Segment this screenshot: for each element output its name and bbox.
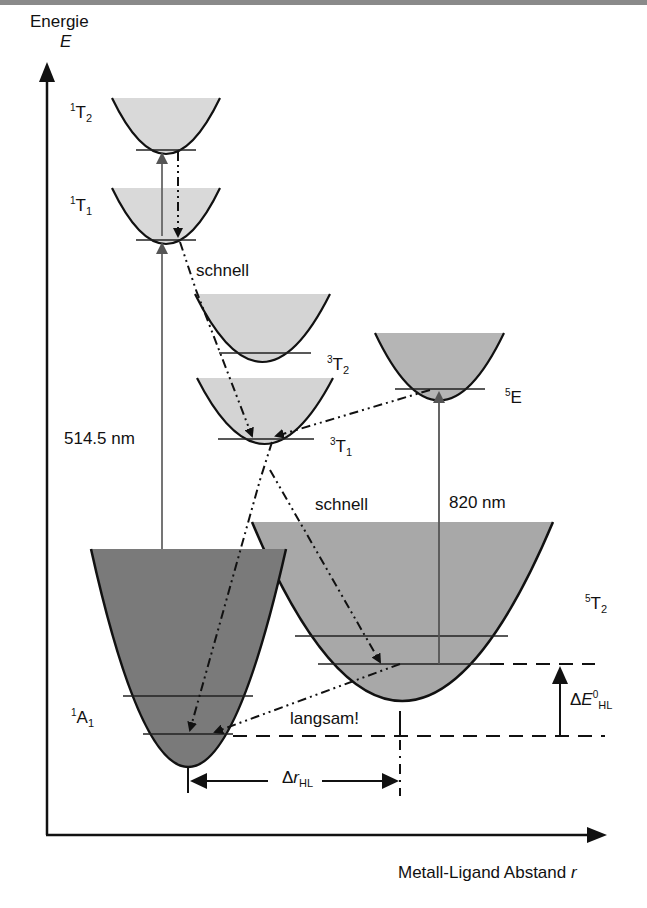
potential-5E xyxy=(375,333,504,401)
state-label-1T1: 1T1 xyxy=(70,196,92,217)
label-schnell-2: schnell xyxy=(315,496,368,513)
state-label-3T1: 3T1 xyxy=(330,437,352,458)
hl-subscript: HL xyxy=(598,699,612,711)
potential-1A1 xyxy=(91,549,286,767)
term: T xyxy=(336,437,346,456)
hl-subscript: HL xyxy=(299,777,313,789)
x-axis-symbol: r xyxy=(571,863,577,882)
state-label-1A1: 1A1 xyxy=(71,708,94,729)
subscript: 1 xyxy=(346,446,352,458)
label-schnell-1: schnell xyxy=(196,262,249,279)
y-axis-label: Energie xyxy=(30,13,89,30)
energy-diagram xyxy=(0,0,647,908)
potential-5T2 xyxy=(252,522,553,701)
y-axis-symbol: E xyxy=(60,33,71,50)
potential-1T1 xyxy=(112,188,220,244)
label-820nm: 820 nm xyxy=(449,494,506,511)
delta-symbol: Δ xyxy=(570,690,581,709)
potential-1T2 xyxy=(112,98,220,154)
state-label-5T2: 5T2 xyxy=(585,594,607,615)
delta-e-arrow xyxy=(552,666,568,736)
state-label-5E: 5E xyxy=(505,388,522,406)
term: A xyxy=(77,708,88,727)
subscript: 2 xyxy=(343,364,349,376)
term: T xyxy=(76,103,86,122)
x-axis-label-text: Metall-Ligand Abstand xyxy=(398,863,566,882)
term: T xyxy=(591,594,601,613)
e-symbol: E xyxy=(581,690,592,709)
x-axis-label: Metall-Ligand Abstand r xyxy=(398,864,577,881)
delta-symbol: Δ xyxy=(282,768,293,787)
term: T xyxy=(76,196,86,215)
potential-3T1 xyxy=(197,378,333,444)
label-514nm: 514.5 nm xyxy=(64,430,135,447)
state-label-1T2: 1T2 xyxy=(70,103,92,124)
potential-3T2 xyxy=(195,294,330,362)
delta-r-label: ΔrHL xyxy=(280,769,315,789)
subscript: 2 xyxy=(601,603,607,615)
subscript: 1 xyxy=(86,205,92,217)
subscript: 1 xyxy=(88,717,94,729)
state-label-3T2: 3T2 xyxy=(327,355,349,376)
label-langsam: langsam! xyxy=(290,710,359,727)
term: T xyxy=(333,355,343,374)
subscript: 2 xyxy=(86,112,92,124)
term: E xyxy=(511,388,522,407)
delta-e-label: ΔE0HL xyxy=(570,690,612,711)
